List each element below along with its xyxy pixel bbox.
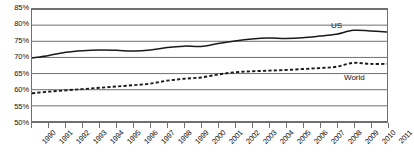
x-axis-tick-label: 2006 — [313, 129, 330, 146]
x-axis-tick — [371, 123, 372, 128]
x-axis-tick-label: 1995 — [126, 129, 143, 146]
y-axis-tick-label: 70% — [3, 53, 29, 61]
x-axis-tick-label: 1990 — [41, 129, 58, 146]
x-axis-tick — [252, 123, 253, 128]
x-axis-tick — [99, 123, 100, 128]
x-axis-tick-label: 1994 — [109, 129, 126, 146]
x-axis-tick — [337, 123, 338, 128]
series-label-world: World — [344, 73, 365, 82]
x-axis-tick-label: 2009 — [364, 129, 381, 146]
y-axis-tick-label: 60% — [3, 86, 29, 94]
x-axis-tick — [354, 123, 355, 128]
series-label-us: US — [331, 21, 342, 30]
x-axis-tick-label: 1991 — [58, 129, 75, 146]
x-axis-tick — [31, 123, 32, 128]
y-axis-tick-label: 75% — [3, 37, 29, 45]
x-axis-tick-label: 2000 — [211, 129, 228, 146]
x-axis-tick — [48, 123, 49, 128]
x-axis: 1990199119921993199419951996199719981999… — [31, 123, 388, 160]
x-axis-tick-label: 2002 — [245, 129, 262, 146]
x-axis-tick — [167, 123, 168, 128]
x-axis-tick-label: 1997 — [160, 129, 177, 146]
x-axis-tick — [388, 123, 389, 128]
x-axis-tick — [269, 123, 270, 128]
y-axis-tick-label: 65% — [3, 70, 29, 78]
x-axis-tick-label: 2005 — [296, 129, 313, 146]
x-axis-tick — [320, 123, 321, 128]
x-axis-tick-label: 2004 — [279, 129, 296, 146]
y-axis: 85%80%75%70%65%60%55%50% — [0, 0, 29, 160]
y-axis-tick-label: 80% — [3, 20, 29, 28]
y-axis-tick-label: 85% — [3, 4, 29, 12]
x-axis-tick — [65, 123, 66, 128]
x-axis-tick — [82, 123, 83, 128]
x-axis-tick-label: 1993 — [92, 129, 109, 146]
x-axis-tick — [235, 123, 236, 128]
x-axis-tick — [218, 123, 219, 128]
x-axis-tick-label: 2011 — [397, 129, 413, 145]
x-axis-tick — [201, 123, 202, 128]
y-axis-tick-label: 55% — [3, 103, 29, 111]
x-axis-tick — [184, 123, 185, 128]
x-axis-tick-label: 2008 — [347, 129, 364, 146]
x-axis-tick-label: 1999 — [194, 129, 211, 146]
x-axis-tick-label: 2007 — [330, 129, 347, 146]
x-axis-tick-label: 1996 — [143, 129, 160, 146]
x-axis-tick — [286, 123, 287, 128]
x-axis-tick-label: 2003 — [262, 129, 279, 146]
x-axis-tick-label: 2010 — [381, 129, 398, 146]
x-axis-tick — [303, 123, 304, 128]
x-axis-tick — [133, 123, 134, 128]
y-axis-tick-label: 50% — [3, 119, 29, 127]
x-axis-tick — [150, 123, 151, 128]
x-axis-tick-label: 2001 — [228, 129, 245, 146]
x-axis-tick-label: 1998 — [177, 129, 194, 146]
x-axis-tick — [116, 123, 117, 128]
x-axis-tick-label: 1992 — [75, 129, 92, 146]
